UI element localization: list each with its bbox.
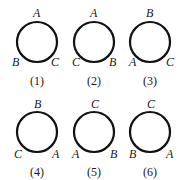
label-top: A — [32, 6, 41, 20]
figure-5: C A B (5) — [71, 97, 118, 179]
circle-arrangements-diagram: A B C (1) A C B (2) B A C (3) B C A (4) … — [0, 0, 183, 180]
figure-4: B C A (4) — [14, 97, 60, 179]
circle-6 — [130, 112, 170, 152]
label-bottom-left: C — [14, 147, 23, 161]
caption: (6) — [143, 165, 157, 179]
label-bottom-right: C — [51, 55, 60, 69]
figure-3: B A C (3) — [128, 6, 175, 88]
figure-6: C B A (6) — [129, 97, 174, 179]
label-bottom-left: B — [12, 55, 20, 69]
label-bottom-right: B — [109, 55, 117, 69]
circle-4 — [17, 112, 57, 152]
label-top: B — [146, 6, 154, 20]
label-bottom-right: C — [166, 55, 175, 69]
caption: (4) — [30, 165, 44, 179]
circle-5 — [74, 112, 114, 152]
label-bottom-right: A — [165, 147, 174, 161]
figure-1: A B C (1) — [12, 6, 60, 88]
figure-2: A C B (2) — [72, 6, 117, 88]
caption: (5) — [87, 165, 101, 179]
caption: (1) — [30, 74, 44, 88]
caption: (2) — [87, 74, 101, 88]
label-top: B — [34, 97, 42, 111]
label-top: A — [89, 6, 98, 20]
label-top: C — [147, 97, 156, 111]
label-bottom-left: A — [128, 55, 137, 69]
label-bottom-right: B — [110, 147, 118, 161]
label-top: C — [91, 97, 100, 111]
label-bottom-left: A — [71, 147, 80, 161]
label-bottom-left: C — [72, 55, 81, 69]
caption: (3) — [143, 74, 157, 88]
label-bottom-right: A — [51, 147, 60, 161]
label-bottom-left: B — [129, 147, 137, 161]
